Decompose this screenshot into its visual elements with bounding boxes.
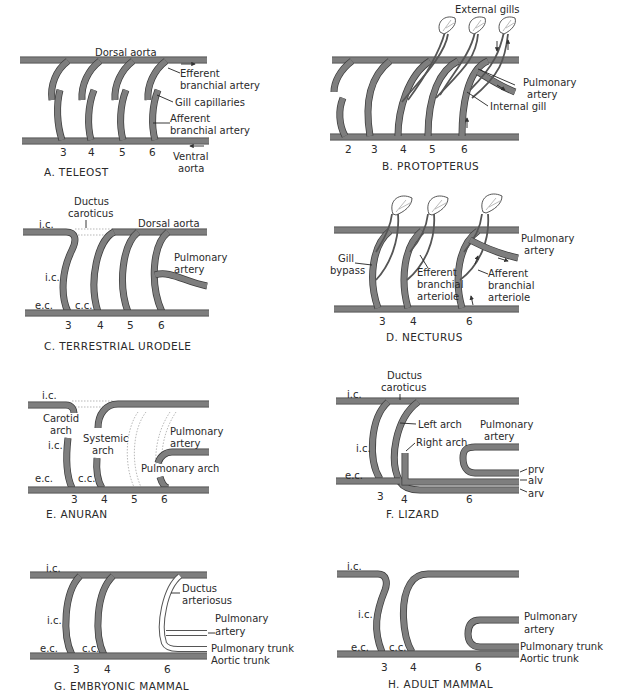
arch-number: 6 — [466, 493, 473, 505]
arch-number: 3 — [377, 490, 384, 502]
label-ic-top: i.c. — [42, 390, 57, 401]
label-ic-mid: i.c. — [47, 615, 62, 626]
arch-number: 3 — [60, 146, 67, 158]
label-gill: Gill — [338, 253, 354, 264]
label-arv: arv — [528, 488, 544, 499]
label-artery: artery — [170, 438, 200, 449]
label-artery: artery — [174, 264, 204, 275]
label-efferent: Efferent — [180, 68, 220, 79]
label-efferent-2: branchial artery — [180, 80, 260, 91]
caption-anuran: E. ANURAN — [46, 508, 108, 520]
label-arteriosus: arteriosus — [182, 595, 232, 606]
label-afferent: Afferent — [170, 113, 210, 124]
label-external-gills: External gills — [455, 4, 520, 15]
arch-number: 4 — [410, 315, 417, 327]
arch-number: 5 — [127, 319, 134, 331]
arch-number: 3 — [65, 319, 72, 331]
caption-teleost: A. TELEOST — [44, 166, 109, 178]
label-left-arch: Left arch — [418, 419, 462, 430]
label-dorsal-aorta: Dorsal aorta — [95, 47, 157, 58]
label-aortic-trunk: Aortic trunk — [211, 655, 270, 666]
label-ventral: Ventral — [173, 151, 209, 162]
arch-number: 3 — [381, 661, 388, 673]
label-pulmonary: Pulmonary — [480, 419, 533, 430]
label-pulmonary: Pulmonary — [170, 426, 223, 437]
label-ic-top: i.c. — [46, 563, 61, 574]
label-artery: artery — [524, 624, 554, 635]
arch-number: 3 — [379, 315, 386, 327]
label-artery: artery — [215, 626, 245, 637]
label-ic-mid: i.c. — [358, 609, 373, 620]
arch-number: 5 — [131, 493, 138, 505]
label-afferent-2: branchial artery — [170, 125, 250, 136]
label-alv: alv — [528, 475, 543, 486]
label-ec: e.c. — [40, 643, 58, 654]
arch-number: 6 — [461, 143, 468, 155]
label-caroticus: caroticus — [68, 208, 113, 219]
arch-number: 6 — [149, 146, 156, 158]
label-pulmonary: Pulmonary — [521, 233, 574, 244]
label-pulmonary-trunk: Pulmonary trunk — [520, 641, 603, 652]
arch-number: 6 — [158, 319, 165, 331]
label-artery: artery — [484, 431, 514, 442]
label-afferent-arteriole: arteriole — [488, 292, 530, 303]
caption-lizard: F. LIZARD — [386, 508, 439, 520]
label-ductus: Ductus — [387, 370, 422, 381]
label-pulmonary: Pulmonary — [174, 252, 227, 263]
arch-number: 6 — [466, 315, 473, 327]
label-cc: c.c. — [389, 642, 406, 653]
label-aortic-trunk: Aortic trunk — [520, 653, 579, 664]
label-ic-mid: i.c. — [48, 440, 63, 451]
arch-number: 5 — [429, 143, 436, 155]
label-ductus: Ductus — [74, 196, 109, 207]
label-internal-gill: Internal gill — [490, 101, 546, 112]
label-ec: e.c. — [35, 473, 53, 484]
label-cc: c.c. — [75, 300, 92, 311]
label-pulmonary: Pulmonary — [524, 611, 577, 622]
label-ic-top: i.c. — [39, 219, 54, 230]
label-carotid-arch: arch — [50, 425, 72, 436]
label-gill-capillaries: Gill capillaries — [175, 97, 245, 108]
arch-number: 2 — [345, 143, 352, 155]
label-ventral-2: aorta — [178, 163, 204, 174]
label-right-arch: Right arch — [416, 437, 467, 448]
arch-number: 5 — [119, 146, 126, 158]
label-dorsal-aorta: Dorsal aorta — [138, 218, 200, 229]
label-systemic-arch: arch — [92, 445, 114, 456]
caption-necturus: D. NECTURUS — [386, 331, 463, 343]
arch-number: 4 — [101, 493, 108, 505]
label-efferent-arteriole: arteriole — [417, 291, 459, 302]
label-ic-mid: i.c. — [45, 272, 60, 283]
arch-number: 4 — [401, 493, 408, 505]
label-pulmonary-2: artery — [527, 89, 557, 100]
caption-adult-mammal: H. ADULT MAMMAL — [388, 678, 493, 690]
label-afferent: Afferent — [488, 268, 528, 279]
label-ductus: Ductus — [182, 583, 217, 594]
arch-number: 6 — [475, 661, 482, 673]
label-efferent-branchial: branchial — [417, 279, 463, 290]
label-systemic: Systemic — [83, 433, 129, 444]
label-carotid: Carotid — [43, 413, 79, 424]
label-ic-mid: i.c. — [356, 443, 371, 454]
label-caroticus: caroticus — [381, 382, 426, 393]
label-ec: e.c. — [351, 642, 369, 653]
panel-b-protopterus-drawing — [330, 17, 519, 137]
arch-number: 6 — [161, 493, 168, 505]
label-ic-top: i.c. — [347, 561, 362, 572]
label-pulmonary: Pulmonary — [523, 77, 576, 88]
arch-number: 6 — [164, 663, 171, 675]
label-pulmonary-arch: Pulmonary arch — [141, 463, 219, 474]
label-prv: prv — [528, 464, 544, 475]
label-afferent-branchial: branchial — [488, 280, 534, 291]
label-pulmonary-trunk: Pulmonary trunk — [211, 643, 294, 654]
arch-number: 3 — [371, 143, 378, 155]
arch-number: 3 — [73, 663, 80, 675]
label-ic-top: i.c. — [347, 389, 362, 400]
arch-number: 4 — [97, 319, 104, 331]
label-ec: e.c. — [35, 300, 53, 311]
label-cc: c.c. — [78, 473, 95, 484]
arch-number: 3 — [71, 493, 78, 505]
arch-number: 4 — [410, 661, 417, 673]
label-pulmonary: Pulmonary — [215, 613, 268, 624]
label-efferent: Efferent — [417, 267, 457, 278]
